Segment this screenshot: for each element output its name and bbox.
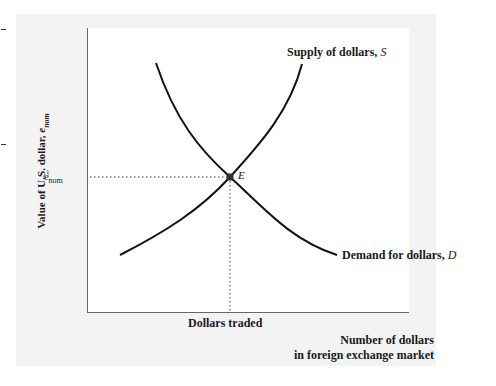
y-tick-sub: nom	[48, 176, 62, 185]
y-tick-enom1: e1nom	[44, 168, 63, 185]
supply-label: Supply of dollars, S	[287, 45, 386, 60]
y-tick-sup: 1	[46, 168, 50, 176]
supply-label-text: Supply of dollars,	[287, 45, 380, 59]
y-axis-label-sub: nom	[42, 113, 51, 128]
equilibrium-point	[227, 174, 234, 181]
x-axis-label: Number of dollars in foreign exchange ma…	[294, 333, 434, 363]
x-axis-label-line2: in foreign exchange market	[294, 348, 434, 363]
y-axis-label-var: e	[35, 128, 47, 133]
x-axis-label-line1: Number of dollars	[294, 333, 434, 348]
x-tick-dollars-traded: Dollars traded	[188, 316, 262, 331]
demand-label: Demand for dollars, D	[342, 248, 456, 263]
demand-label-text: Demand for dollars,	[342, 248, 448, 262]
supply-label-var: S	[380, 45, 386, 59]
demand-label-var: D	[448, 248, 457, 262]
equilibrium-label: E	[238, 169, 245, 181]
